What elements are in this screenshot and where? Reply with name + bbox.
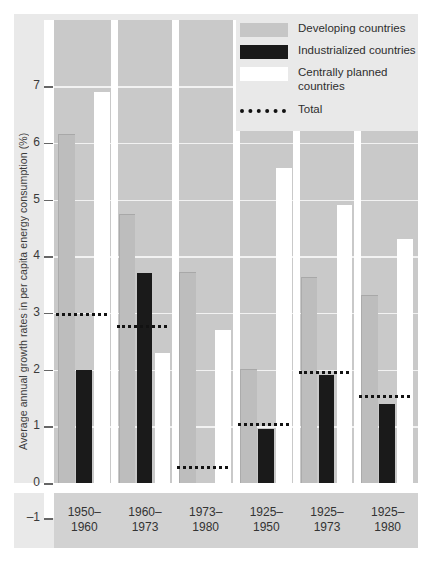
x-axis-label-5: 1925–1980 bbox=[357, 505, 418, 535]
y-axis-title: Average annual growth rates in per capit… bbox=[17, 60, 29, 523]
y-tick-3 bbox=[44, 313, 53, 315]
total-line-1 bbox=[117, 325, 168, 328]
bar-ind-1 bbox=[137, 273, 153, 483]
y-tick-label-5: 5 bbox=[14, 192, 40, 206]
x-axis-label-line: 1925– bbox=[357, 505, 418, 520]
bar-cp-5 bbox=[397, 239, 413, 483]
y-tick-7 bbox=[44, 86, 53, 88]
y-tick-label--1: –1 bbox=[14, 510, 40, 524]
bar-dev-1 bbox=[119, 214, 136, 483]
legend-item-cp: Centrally planned countries bbox=[240, 66, 418, 93]
y-tick-6 bbox=[44, 143, 53, 145]
x-axis-label-2: 1973–1980 bbox=[175, 505, 236, 535]
y-tick-label-0: 0 bbox=[14, 475, 40, 489]
x-axis-label-line: 1980 bbox=[357, 520, 418, 535]
bar-cp-4 bbox=[337, 205, 353, 483]
legend-label: Centrally planned countries bbox=[298, 66, 398, 93]
x-axis-label-4: 1925–1973 bbox=[297, 505, 358, 535]
bar-dev-2 bbox=[179, 272, 196, 483]
y-tick-label-2: 2 bbox=[14, 362, 40, 376]
y-tick-1 bbox=[44, 426, 53, 428]
x-axis-label-line: 1980 bbox=[175, 520, 236, 535]
y-tick-label-1: 1 bbox=[14, 418, 40, 432]
total-line-3 bbox=[238, 423, 289, 426]
x-axis-label-line: 1960 bbox=[54, 520, 115, 535]
total-line-4 bbox=[299, 371, 350, 374]
x-axis-label-0: 1950–1960 bbox=[54, 505, 115, 535]
x-axis-label-line: 1950 bbox=[236, 520, 297, 535]
y-tick-label-3: 3 bbox=[14, 305, 40, 319]
x-axis-label-line: 1973 bbox=[297, 520, 358, 535]
chart-figure: Average annual growth rates in per capit… bbox=[0, 0, 432, 578]
x-axis-label-line: 1973– bbox=[175, 505, 236, 520]
y-tick-2 bbox=[44, 370, 53, 372]
y-tick-0 bbox=[44, 483, 53, 485]
bar-dev-5 bbox=[361, 295, 378, 483]
total-line-5 bbox=[359, 395, 410, 398]
x-axis-label-band: 1950–19601960–19731973–19801925–19501925… bbox=[54, 493, 418, 548]
y-tick-label-7: 7 bbox=[14, 78, 40, 92]
legend-item-dev: Developing countries bbox=[240, 22, 418, 37]
x-axis-label-line: 1960– bbox=[115, 505, 176, 520]
y-axis-strip bbox=[44, 20, 54, 483]
bar-ind-0 bbox=[76, 370, 92, 483]
legend-item-ind: Industrialized countries bbox=[240, 44, 418, 59]
y-tick-label-4: 4 bbox=[14, 248, 40, 262]
x-axis-label-3: 1925–1950 bbox=[236, 505, 297, 535]
total-line-2 bbox=[177, 466, 228, 469]
x-axis-label-1: 1960–1973 bbox=[115, 505, 176, 535]
x-axis-label-line: 1925– bbox=[236, 505, 297, 520]
x-axis-label-line: 1950– bbox=[54, 505, 115, 520]
x-axis-label-line: 1925– bbox=[297, 505, 358, 520]
bar-cp-2 bbox=[215, 330, 231, 483]
bar-cp-1 bbox=[155, 353, 171, 483]
total-line-0 bbox=[56, 313, 107, 316]
bar-cp-0 bbox=[94, 92, 110, 483]
legend-swatch-total bbox=[240, 104, 288, 118]
y-tick--1 bbox=[44, 518, 53, 520]
legend-swatch-dev bbox=[240, 23, 288, 37]
group-separator bbox=[111, 20, 118, 483]
y-tick-label-6: 6 bbox=[14, 135, 40, 149]
bar-cp-3 bbox=[276, 168, 292, 483]
bar-ind-5 bbox=[379, 404, 395, 483]
legend-label: Total bbox=[298, 103, 322, 117]
group-separator bbox=[172, 20, 179, 483]
bar-dev-0 bbox=[58, 134, 75, 483]
legend-swatch-cp bbox=[240, 67, 288, 81]
legend-label: Industrialized countries bbox=[298, 44, 416, 58]
legend-item-total: Total bbox=[240, 103, 418, 118]
x-axis-label-line: 1973 bbox=[115, 520, 176, 535]
legend-swatch-ind bbox=[240, 45, 288, 59]
legend-label: Developing countries bbox=[298, 22, 405, 36]
baseline-gap bbox=[14, 483, 418, 493]
bar-ind-4 bbox=[319, 375, 335, 483]
chart-legend: Developing countriesIndustrialized count… bbox=[236, 18, 418, 131]
bar-dev-4 bbox=[301, 277, 318, 483]
y-tick-5 bbox=[44, 200, 53, 202]
y-tick-4 bbox=[44, 256, 53, 258]
bar-ind-3 bbox=[258, 429, 274, 483]
